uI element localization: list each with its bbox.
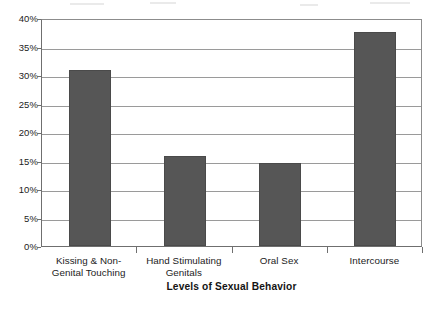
bar bbox=[259, 163, 301, 246]
scan-artifact bbox=[150, 2, 176, 4]
x-axis-tick-mark bbox=[136, 247, 137, 253]
x-axis-category-label: Intercourse bbox=[327, 255, 422, 267]
x-axis-category-line: Genitals bbox=[166, 267, 202, 278]
x-axis-category-label: Oral Sex bbox=[232, 255, 327, 267]
bar bbox=[164, 156, 206, 246]
x-axis-category-line: Genital Touching bbox=[52, 267, 126, 278]
x-axis-tick-mark bbox=[232, 247, 233, 253]
x-axis-tick-marks bbox=[41, 247, 422, 254]
bar-chart-figure: 0%5%10%15%20%25%30%35%40% Kissing & Non-… bbox=[0, 0, 440, 312]
bar bbox=[69, 70, 111, 246]
x-axis-title: Levels of Sexual Behavior bbox=[41, 281, 422, 292]
scan-artifact bbox=[300, 4, 318, 6]
scan-artifact bbox=[370, 2, 410, 4]
x-axis-category-line: Kissing & Non- bbox=[56, 255, 122, 266]
y-axis-tick-marks bbox=[0, 19, 41, 247]
x-axis-category-line: Intercourse bbox=[350, 255, 400, 266]
bar bbox=[354, 32, 396, 246]
plot-area bbox=[41, 19, 422, 247]
x-axis-category-label: Kissing & Non-Genital Touching bbox=[41, 255, 136, 280]
x-axis-tick-mark bbox=[327, 247, 328, 253]
x-axis-category-line: Hand Stimulating bbox=[146, 255, 221, 266]
x-axis-tick-mark bbox=[422, 247, 423, 253]
x-axis-category-label: Hand StimulatingGenitals bbox=[136, 255, 231, 280]
scan-artifact bbox=[70, 3, 104, 5]
x-axis-category-line: Oral Sex bbox=[260, 255, 299, 266]
